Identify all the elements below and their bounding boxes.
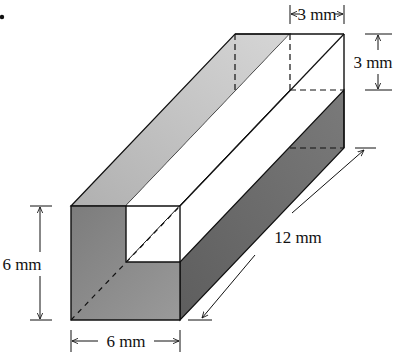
- label-length: 12 mm: [274, 228, 322, 247]
- label-groove-depth: 3 mm: [353, 53, 392, 72]
- prism-diagram: 3 mm 3 mm 6 mm 6 mm 12 mm: [0, 0, 394, 361]
- label-groove-width: 3 mm: [297, 5, 336, 24]
- label-height: 6 mm: [2, 255, 41, 274]
- figure-marker-dot: [0, 15, 4, 19]
- label-width: 6 mm: [106, 332, 145, 351]
